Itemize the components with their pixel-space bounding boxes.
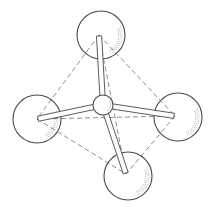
tetrahedron-diagram (0, 0, 209, 207)
atom-center (93, 95, 113, 115)
center-atom-layer (93, 95, 113, 115)
edge-right-bottom (126, 116, 175, 174)
atom-bottom (104, 152, 152, 200)
atom-right (154, 93, 202, 141)
